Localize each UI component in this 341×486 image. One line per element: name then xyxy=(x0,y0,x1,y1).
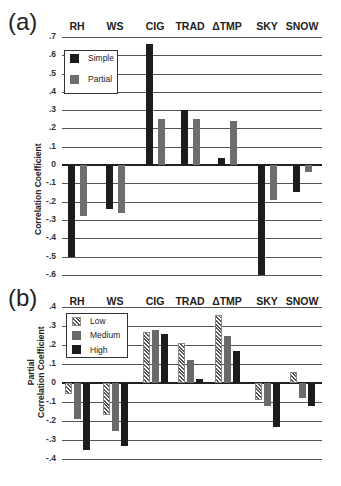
gridline xyxy=(62,307,322,308)
y-tick-label: .5 xyxy=(38,68,56,78)
bar-high-snow xyxy=(308,383,315,406)
legend-swatch-icon xyxy=(70,75,79,84)
bar-partial-dtmp xyxy=(230,121,237,165)
bar-partial-trad xyxy=(193,119,200,165)
bar-high-ws xyxy=(121,383,128,446)
column-label: TRAD xyxy=(175,20,204,32)
column-label: WS xyxy=(107,295,124,307)
bar-medium-trad xyxy=(187,360,194,383)
legend-swatch-icon xyxy=(72,331,81,340)
bar-medium-cig xyxy=(152,330,159,383)
column-label: ΔTMP xyxy=(212,295,242,307)
gridline xyxy=(62,37,322,38)
bar-low-sky xyxy=(255,383,262,400)
y-tick-label: -.5 xyxy=(38,251,56,261)
bar-partial-ws xyxy=(118,165,125,213)
bar-medium-sky xyxy=(264,383,271,406)
bar-low-ws xyxy=(103,383,110,415)
column-label: CIG xyxy=(146,295,165,307)
y-tick-label: -.4 xyxy=(38,453,56,463)
legend-label: Medium xyxy=(90,330,120,340)
y-axis-label: Correlation Coefficient xyxy=(33,143,43,235)
column-label: SNOW xyxy=(286,20,319,32)
bar-partial-rh xyxy=(80,165,87,216)
y-tick-label: .3 xyxy=(38,104,56,114)
legend-item-partial: Partial xyxy=(70,74,112,84)
bar-simple-dtmp xyxy=(218,158,225,165)
legend-label: Simple xyxy=(88,53,114,63)
bar-high-rh xyxy=(83,383,90,450)
bar-partial-sky xyxy=(270,165,277,200)
gridline xyxy=(62,275,322,276)
bar-partial-cig xyxy=(158,119,165,165)
legend-label: Low xyxy=(90,316,106,326)
y-tick-label: .4 xyxy=(38,301,56,311)
gridline xyxy=(62,183,322,184)
legend-label: High xyxy=(90,345,107,355)
bar-low-snow xyxy=(290,372,297,383)
legend-swatch-icon xyxy=(72,317,81,326)
column-label: CIG xyxy=(146,20,165,32)
y-tick-label: .4 xyxy=(38,86,56,96)
bar-high-trad xyxy=(196,379,203,383)
legend-item-medium: Medium xyxy=(72,330,120,340)
bar-simple-trad xyxy=(181,110,188,165)
bar-low-cig xyxy=(143,332,150,383)
gridline xyxy=(62,257,322,258)
legend-label: Partial xyxy=(88,74,112,84)
column-label: RH xyxy=(69,295,84,307)
gridline xyxy=(62,402,322,403)
bar-low-dtmp xyxy=(215,315,222,383)
column-label: SKY xyxy=(256,295,278,307)
y-axis-label-line1: Partial xyxy=(26,326,36,418)
legend-item-low: Low xyxy=(72,316,106,326)
column-label: TRAD xyxy=(175,295,204,307)
column-label: SKY xyxy=(256,20,278,32)
bar-high-cig xyxy=(161,334,168,383)
gridline xyxy=(62,421,322,422)
bar-simple-cig xyxy=(146,44,153,165)
bar-medium-dtmp xyxy=(224,336,231,384)
column-label: SNOW xyxy=(286,295,319,307)
bar-simple-sky xyxy=(258,165,265,275)
legend-item-high: High xyxy=(72,345,107,355)
column-label: RH xyxy=(69,20,84,32)
bar-simple-rh xyxy=(68,165,75,257)
y-tick-label: -.6 xyxy=(38,269,56,279)
bar-low-trad xyxy=(178,343,185,383)
legend-swatch-icon xyxy=(72,345,81,354)
bar-simple-ws xyxy=(106,165,113,209)
gridline xyxy=(62,202,322,203)
bar-partial-snow xyxy=(305,165,312,172)
bar-high-dtmp xyxy=(233,351,240,383)
bar-medium-rh xyxy=(74,383,81,419)
bar-high-sky xyxy=(273,383,280,427)
y-tick-label: .7 xyxy=(38,31,56,41)
bar-medium-ws xyxy=(112,383,119,431)
y-axis-label: PartialCorrelation Coefficient xyxy=(26,326,46,418)
gridline xyxy=(62,440,322,441)
gridline xyxy=(62,459,322,460)
legend-item-simple: Simple xyxy=(70,53,114,63)
bar-low-rh xyxy=(65,383,72,394)
bar-simple-snow xyxy=(293,165,300,192)
gridline xyxy=(62,110,322,111)
y-tick-label: .6 xyxy=(38,49,56,59)
y-tick-label: -.3 xyxy=(38,434,56,444)
legend-swatch-icon xyxy=(70,54,79,63)
bar-medium-snow xyxy=(299,383,306,398)
panel-label-b: (b) xyxy=(8,284,37,312)
y-tick-label: .2 xyxy=(38,122,56,132)
panel-label-a: (a) xyxy=(8,8,37,36)
y-axis-label-line2: Correlation Coefficient xyxy=(36,326,46,418)
column-label: ΔTMP xyxy=(212,20,242,32)
column-label: WS xyxy=(107,20,124,32)
gridline xyxy=(62,220,322,221)
gridline xyxy=(62,238,322,239)
